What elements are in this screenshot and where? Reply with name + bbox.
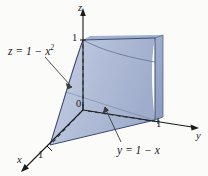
solid-region [50, 35, 163, 145]
label-axis-z: z [78, 3, 82, 14]
figure-canvas [0, 0, 208, 176]
label-tick-x-1: 1 [38, 150, 43, 161]
leader-line-surface [45, 57, 70, 85]
label-plane-equation: y = 1 − x [117, 145, 160, 157]
label-tick-z-1: 1 [72, 33, 77, 44]
figure-3d-solid-region: z = 1 − x2 y = 1 − x z y x 1 1 1 0 [0, 0, 208, 176]
right-face [155, 35, 163, 120]
label-axis-x: x [17, 155, 22, 166]
label-surface-equation: z = 1 − x2 [8, 44, 54, 57]
label-tick-y-1: 1 [156, 119, 161, 130]
label-axis-y: y [196, 131, 201, 142]
x-axis-tick-1 [47, 146, 52, 151]
label-surface-equation-exponent: 2 [50, 43, 54, 52]
label-origin: 0 [76, 99, 81, 110]
label-surface-equation-text: z = 1 − x [8, 45, 50, 57]
